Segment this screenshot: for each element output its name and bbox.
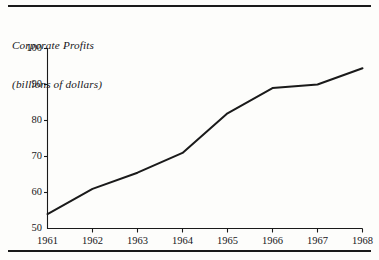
- chart-figure: Corporate Profits (billions of dollars) …: [0, 0, 379, 260]
- y-tick-label: 70: [10, 150, 42, 161]
- axes: [48, 49, 363, 229]
- y-tick-label: 90: [10, 78, 42, 89]
- y-tick-label: 50: [10, 222, 42, 233]
- x-tick-label: 1961: [25, 235, 71, 246]
- x-tick-label: 1963: [115, 235, 161, 246]
- x-tick-label: 1962: [70, 235, 116, 246]
- plot-area: [0, 0, 379, 260]
- x-tick-label: 1964: [160, 235, 206, 246]
- x-tick-label: 1968: [340, 235, 379, 246]
- x-tick-label: 1965: [205, 235, 251, 246]
- x-tick-label: 1967: [295, 235, 341, 246]
- y-tick-label: 80: [10, 114, 42, 125]
- bottom-rule: [8, 250, 371, 252]
- y-tick-label: 60: [10, 186, 42, 197]
- data-series: [48, 68, 363, 214]
- x-axis-ticks: [93, 229, 363, 233]
- x-tick-label: 1966: [250, 235, 296, 246]
- y-tick-label: 100: [10, 42, 42, 53]
